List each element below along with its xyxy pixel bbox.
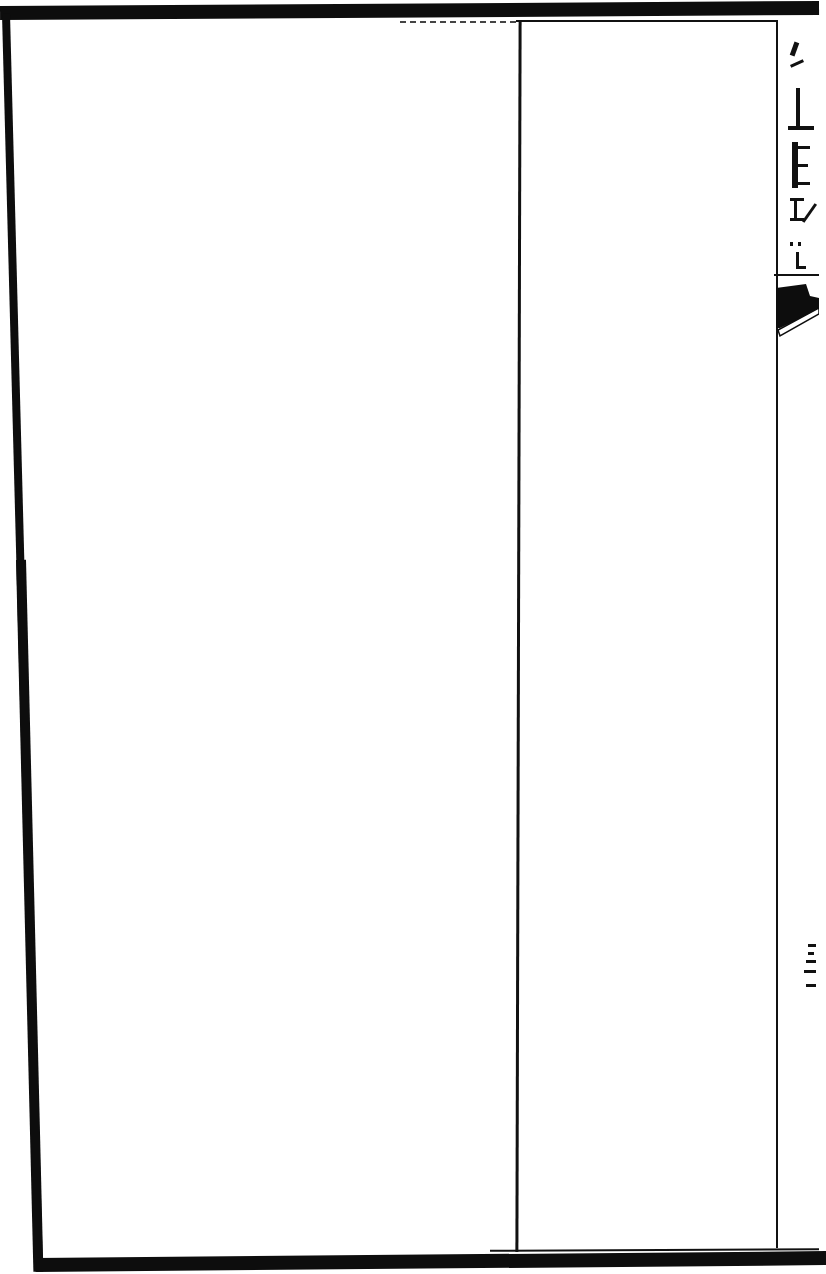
page-number-marks (796, 938, 818, 998)
column-divider-rule (515, 20, 521, 1252)
outer-border-left-lower (16, 560, 43, 1272)
top-dashed-rule (400, 21, 516, 23)
fold-title-glyphs (786, 30, 814, 270)
outer-border-bottom (36, 1251, 826, 1272)
fishtail-mark-icon (776, 284, 819, 344)
outer-border-top (0, 1, 819, 20)
inner-top-rule (516, 20, 778, 22)
fold-title-box-bottom-rule (774, 274, 819, 276)
